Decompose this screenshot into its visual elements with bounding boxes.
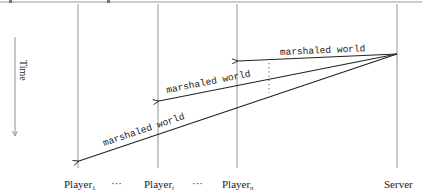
ellipsis: ··· bbox=[192, 177, 203, 189]
participant-label-player-i: Playeri bbox=[144, 178, 174, 192]
participant-label-player-n: Playern bbox=[222, 178, 254, 192]
ellipsis: ··· bbox=[111, 177, 122, 189]
sequence-diagram: Time marshaled world marshaled world mar… bbox=[0, 0, 427, 193]
participant-label-server: Server bbox=[384, 178, 413, 190]
top-mark bbox=[9, 0, 12, 3]
message-label: marshaled world bbox=[165, 69, 251, 96]
participant-label-player-1: Player1 bbox=[64, 178, 96, 192]
time-axis: Time bbox=[13, 37, 30, 136]
message-label: marshaled world bbox=[101, 111, 186, 149]
top-mark bbox=[107, 0, 110, 3]
time-label: Time bbox=[18, 60, 29, 81]
